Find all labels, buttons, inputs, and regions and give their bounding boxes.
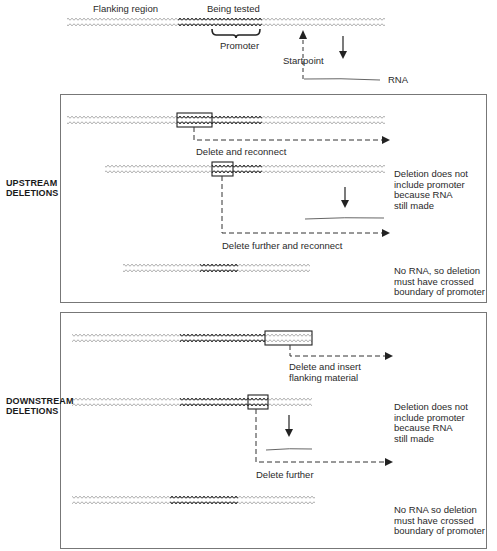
upstream-row-2-rna-line xyxy=(305,218,384,219)
downstream-heading-line1: DOWNSTREAM xyxy=(6,396,74,406)
startpoint-up-arrow-icon xyxy=(299,30,307,39)
transcription-arrowhead xyxy=(339,51,347,59)
upstream-note-no-rna: No RNA, so deletion must have crossed bo… xyxy=(394,266,485,298)
tested-helix xyxy=(178,18,262,26)
flanking-region-label: Flanking region xyxy=(93,3,158,14)
upstream-heading-line1: UPSTREAM xyxy=(6,178,58,188)
being-tested-label: Being tested xyxy=(207,3,260,14)
downstream-row-2-helix xyxy=(72,398,312,406)
upstream-heading-line2: DELETIONS xyxy=(6,188,58,198)
overview-dna xyxy=(67,18,385,26)
upstream-row-1-dashed-arrow xyxy=(194,127,388,140)
upstream-row-1-helix xyxy=(67,116,385,124)
upstream-row-2-dashed-arrow xyxy=(222,176,388,233)
upstream-row-2-arrowhead xyxy=(341,200,349,208)
upstream-row-3-helix xyxy=(123,264,310,272)
upstream-step-2-label: Delete further and reconnect xyxy=(222,240,342,251)
upstream-heading: UPSTREAM DELETIONS xyxy=(6,178,58,198)
downstream-row-2-rna-line xyxy=(266,449,312,450)
downstream-step-2-label: Delete further xyxy=(256,469,314,480)
startpoint-label: Startpoint xyxy=(283,55,324,66)
rna-line xyxy=(304,79,380,80)
upstream-note-rna-made: Deletion does not include promoter becau… xyxy=(394,169,468,211)
flanking-helix xyxy=(67,18,178,26)
downstream-row-1-dashed-arrow xyxy=(290,345,391,356)
upstream-row-2-helix xyxy=(105,165,385,173)
downstream-step-1-label-line1: Delete and insert xyxy=(289,361,361,372)
downstream-note-no-rna: No RNA so deletion must have crossed bou… xyxy=(394,505,485,537)
downstream-row-3-helix xyxy=(72,496,315,504)
upstream-step-1-label: Delete and reconnect xyxy=(196,146,286,157)
promoter-label: Promoter xyxy=(220,40,259,51)
downstream-row-2-arrowhead xyxy=(285,429,293,437)
downstream-heading: DOWNSTREAM DELETIONS xyxy=(6,396,74,416)
downstream-note-rna-made: Deletion does not include promoter becau… xyxy=(394,402,468,444)
rna-label: RNA xyxy=(388,74,408,85)
downstream-row-1-helix xyxy=(72,334,312,342)
downstream-heading-line2: DELETIONS xyxy=(6,406,74,416)
downstream-step-1-label-line2: flanking material xyxy=(289,372,358,383)
downstream-row-2-dashed-arrow xyxy=(256,409,391,462)
downstream-helix xyxy=(262,18,385,26)
promoter-brace-icon xyxy=(212,29,260,38)
